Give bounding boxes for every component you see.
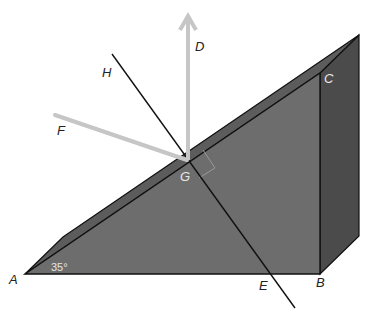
angle-label-35: 35°	[51, 261, 68, 273]
prism-front-face	[25, 73, 320, 274]
label-G: G	[180, 170, 190, 184]
ray-FG	[55, 115, 187, 160]
diagram-figure: D H C F G 35° A E B	[0, 0, 372, 320]
label-A: A	[9, 273, 18, 287]
label-H: H	[102, 66, 111, 80]
label-D: D	[195, 40, 204, 54]
label-C: C	[324, 72, 333, 86]
label-F: F	[57, 124, 65, 138]
label-B: B	[316, 276, 325, 290]
label-E: E	[259, 279, 268, 293]
